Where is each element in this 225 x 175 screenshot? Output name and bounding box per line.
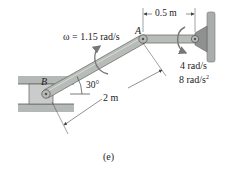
point-A-label: A bbox=[135, 26, 141, 36]
alpha-CA-value: 8 rad/s bbox=[179, 74, 206, 85]
angle-label: 30° bbox=[86, 81, 99, 91]
alpha-CA-label: 8 rad/s2 bbox=[179, 74, 209, 85]
omega-AB-label: ω = 1.15 rad/s bbox=[63, 32, 120, 42]
point-B-label: B bbox=[41, 77, 47, 87]
length-AB-label: 2 m bbox=[103, 93, 118, 103]
figure-caption: (e) bbox=[103, 152, 114, 162]
alpha-CA-exponent: 2 bbox=[206, 74, 209, 80]
omega-CA-label: 4 rad/s bbox=[180, 61, 207, 71]
link-CA bbox=[143, 35, 195, 43]
mechanism-diagram bbox=[0, 0, 225, 175]
length-CA-label: 0.5 m bbox=[155, 9, 177, 19]
